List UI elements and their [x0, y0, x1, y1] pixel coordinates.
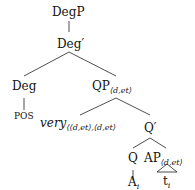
- ap-label: AP: [144, 151, 161, 165]
- syntax-tree: DegP Deg′ Deg QP⟨d,et⟩ POS very⟨⟨d,et⟩,⟨…: [0, 0, 195, 190]
- node-q-bar: Q′: [144, 122, 157, 134]
- node-deg-bar: Deg′: [57, 38, 84, 50]
- node-pos: POS: [14, 112, 34, 121]
- very-type: ⟨⟨d,et⟩,⟨d,et⟩: [66, 123, 115, 132]
- a-index: i: [137, 182, 140, 190]
- node-deg: Deg: [12, 80, 36, 92]
- node-very: very⟨⟨d,et⟩,⟨d,et⟩: [40, 117, 116, 132]
- ap-type: ⟨d,et⟩: [161, 158, 183, 167]
- node-trace: ti: [163, 175, 170, 190]
- node-degp: DegP: [52, 6, 84, 18]
- a-label: A: [128, 175, 137, 189]
- very-label: very: [40, 116, 66, 130]
- qp-label: QP: [92, 79, 110, 93]
- node-q: Q: [128, 152, 138, 164]
- node-qp: QP⟨d,et⟩: [92, 80, 132, 95]
- node-a: Ai: [128, 176, 139, 190]
- trace-index: i: [168, 181, 171, 190]
- node-ap: AP⟨d,et⟩: [144, 152, 183, 167]
- qp-type: ⟨d,et⟩: [110, 86, 132, 95]
